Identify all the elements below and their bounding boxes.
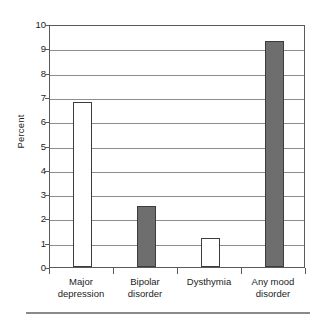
y-axis-tick-label: 2: [20, 214, 46, 224]
y-axis-tick-label: 7: [20, 93, 46, 103]
y-axis-tick-label: 10: [20, 20, 46, 30]
category-label-line: depression: [49, 288, 113, 300]
x-axis-category-label: Dysthymia: [177, 276, 241, 288]
y-axis-tick-label: 1: [20, 239, 46, 249]
bar: [201, 238, 220, 267]
y-axis-title: Percent: [15, 92, 26, 172]
bottom-divider-rule: [26, 312, 310, 314]
category-label-line: disorder: [241, 288, 305, 300]
bar: [73, 102, 92, 267]
category-label-line: Dysthymia: [177, 276, 241, 288]
x-axis-tick-mark: [241, 268, 242, 274]
y-axis-tick-label: 4: [20, 166, 46, 176]
bar: [265, 41, 284, 267]
x-axis-category-label: Bipolardisorder: [113, 276, 177, 299]
y-axis-tick-label: 8: [20, 69, 46, 79]
category-label-line: Major: [49, 276, 113, 288]
x-axis-tick-mark: [49, 268, 50, 274]
x-axis-category-label: Majordepression: [49, 276, 113, 299]
y-axis-tick-label: 0: [20, 263, 46, 273]
y-axis-tick-label: 6: [20, 117, 46, 127]
x-axis-category-label: Any mooddisorder: [241, 276, 305, 299]
y-axis-tick-label: 5: [20, 142, 46, 152]
category-label-line: disorder: [113, 288, 177, 300]
x-axis-tick-mark: [305, 268, 306, 274]
y-axis-tick-label: 3: [20, 190, 46, 200]
category-label-line: Any mood: [241, 276, 305, 288]
x-axis-tick-mark: [113, 268, 114, 274]
y-axis-tick-label: 9: [20, 44, 46, 54]
x-axis-tick-mark: [177, 268, 178, 274]
bar: [137, 206, 156, 267]
plot-area: [49, 25, 305, 268]
category-label-line: Bipolar: [113, 276, 177, 288]
bar-chart-figure: Percent 012345678910 MajordepressionBipo…: [0, 0, 328, 322]
